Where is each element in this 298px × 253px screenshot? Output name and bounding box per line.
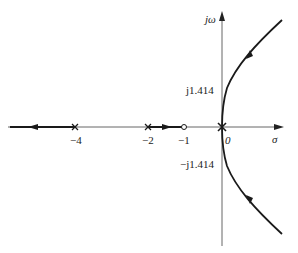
locus-arrow-mid-icon	[162, 124, 172, 130]
tick-label-j-neg: −j1.414	[180, 158, 215, 170]
tick-label-minus4: −4	[70, 134, 82, 146]
imag-axis-arrow-icon	[219, 11, 225, 21]
locus-branch-upper	[222, 20, 282, 127]
real-axis-arrow-icon	[274, 124, 284, 130]
imag-axis-label: jω	[203, 13, 216, 25]
tick-label-j-pos: j1.414	[185, 84, 214, 96]
root-locus-diagram: −4 −2 −1 0 j1.414 −j1.414 σ jω	[0, 0, 298, 253]
real-axis-label: σ	[272, 133, 278, 145]
tick-label-zero: 0	[225, 134, 231, 146]
zero-minus1-icon	[182, 125, 187, 130]
tick-label-minus2: −2	[142, 134, 154, 146]
tick-label-minus1: −1	[178, 134, 190, 146]
locus-arrow-left-icon	[28, 124, 38, 130]
